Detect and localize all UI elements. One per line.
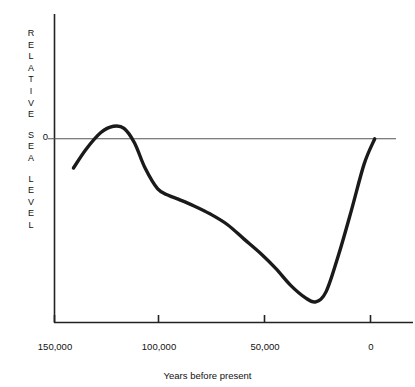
x-axis-label-100000: 100,000 xyxy=(142,341,176,352)
plot-area xyxy=(0,0,415,387)
chart-figure: R E L A T I V E S E A L E V E L 0 xyxy=(0,0,415,387)
x-axis-label-150000: 150,000 xyxy=(38,341,72,352)
x-axis-title: Years before present xyxy=(0,370,415,381)
x-axis-label-0: 0 xyxy=(368,341,373,352)
sea-level-curve xyxy=(73,126,374,302)
x-axis-label-50000: 50,000 xyxy=(250,341,279,352)
